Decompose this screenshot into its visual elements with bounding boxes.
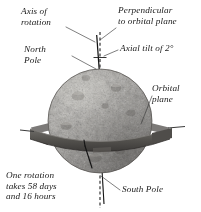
leader-axial-tilt (104, 50, 118, 56)
leader-axis-of-rotation (66, 27, 95, 42)
label-south-pole: South Pole (122, 184, 192, 195)
figure-canvas: Axis of rotation Perpendicular to orbita… (0, 0, 201, 212)
label-perpendicular-to-orbital-plane: Perpendicular to orbital plane (118, 5, 200, 26)
label-rotation-period: One rotation takes 58 days and 16 hours (6, 170, 92, 202)
leader-north-pole (72, 56, 96, 69)
label-orbital-plane: Orbital plane (152, 83, 200, 104)
label-axial-tilt: Axial tilt of 2° (120, 43, 200, 54)
planet-sphere (46, 67, 154, 175)
label-axis-of-rotation: Axis of rotation (21, 6, 81, 27)
leader-south-pole (101, 176, 120, 190)
label-north-pole: North Pole (24, 44, 74, 65)
leader-perpendicular (100, 28, 116, 40)
